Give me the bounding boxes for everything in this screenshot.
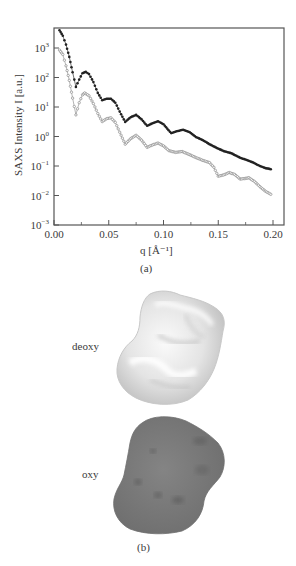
data-point (75, 114, 77, 116)
x-tick-label: 0.10 (154, 228, 174, 240)
data-point (78, 78, 81, 81)
data-point (270, 168, 273, 171)
data-point (69, 61, 72, 64)
data-point (65, 65, 67, 67)
figure: 0.000.050.100.150.2010310210110010−110−2… (0, 0, 296, 566)
data-point (76, 82, 79, 85)
molecular-models (0, 285, 296, 555)
data-point (94, 106, 96, 108)
data-point (98, 115, 100, 117)
data-point (98, 94, 101, 97)
data-point (80, 98, 82, 100)
data-point (97, 112, 99, 114)
panel-label-b: (b) (137, 541, 150, 553)
y-tick-label: 10−2 (31, 189, 50, 202)
data-point (68, 56, 71, 59)
data-point (214, 169, 216, 171)
data-point (67, 52, 70, 55)
data-point (120, 113, 123, 116)
deoxy-label: deoxy (72, 340, 99, 352)
data-point (89, 97, 91, 99)
data-point (70, 66, 73, 69)
data-point (73, 105, 75, 107)
y-tick-label: 103 (35, 41, 50, 54)
x-axis-label: q [Å⁻¹] (140, 244, 173, 257)
data-point (92, 102, 94, 104)
data-point (117, 128, 119, 130)
oxy-model (114, 417, 225, 534)
y-tick-label: 101 (35, 100, 50, 113)
data-point (213, 166, 215, 168)
data-point (62, 53, 64, 55)
data-point (216, 172, 218, 174)
data-point (114, 101, 117, 104)
y-tick-label: 100 (35, 130, 50, 143)
data-point (117, 107, 120, 110)
series-line-oxy (60, 50, 271, 194)
data-point (94, 84, 97, 87)
data-point (116, 104, 119, 107)
data-point (99, 97, 102, 100)
data-point (66, 47, 69, 50)
data-point (92, 81, 95, 84)
data-point (100, 118, 102, 120)
data-point (71, 71, 74, 74)
data-point (73, 78, 76, 81)
data-point (95, 109, 97, 111)
data-point (121, 116, 124, 119)
x-tick-label: 0.05 (99, 228, 119, 240)
x-tick-label: 0.00 (44, 228, 64, 240)
data-point (91, 100, 93, 102)
data-point (80, 75, 83, 78)
data-point (76, 108, 78, 110)
data-point (70, 91, 72, 93)
y-tick-label: 102 (35, 71, 50, 84)
data-point (63, 39, 66, 42)
data-point (123, 140, 125, 142)
series-oxy (58, 49, 272, 196)
data-point (114, 121, 116, 123)
plot-frame (54, 28, 284, 225)
data-point (123, 118, 126, 121)
data-point (116, 125, 118, 127)
data-point (68, 79, 70, 81)
data-point (121, 137, 123, 139)
data-point (65, 43, 68, 46)
data-point (88, 73, 91, 76)
data-point (89, 76, 92, 79)
data-point (120, 134, 122, 136)
data-point (62, 35, 65, 38)
data-point (119, 131, 121, 133)
data-point (97, 92, 100, 95)
data-point (71, 97, 73, 99)
data-point (88, 95, 90, 97)
data-point (270, 193, 272, 195)
deoxy-model (117, 291, 224, 404)
data-point (66, 69, 68, 71)
data-point (95, 88, 98, 91)
data-point (69, 85, 71, 87)
data-point (63, 59, 65, 61)
data-point (118, 110, 121, 113)
data-point (91, 78, 94, 81)
y-tick-label: 10−1 (31, 159, 50, 172)
oxy-label: oxy (82, 468, 99, 480)
x-tick-label: 0.20 (263, 228, 283, 240)
panel-label-a: (a) (140, 262, 152, 274)
x-tick-label: 0.15 (209, 228, 229, 240)
data-point (67, 74, 69, 76)
y-axis-label: SAXS Intensity I [a.u.] (12, 65, 24, 185)
data-point (78, 102, 80, 104)
data-point (75, 86, 78, 89)
